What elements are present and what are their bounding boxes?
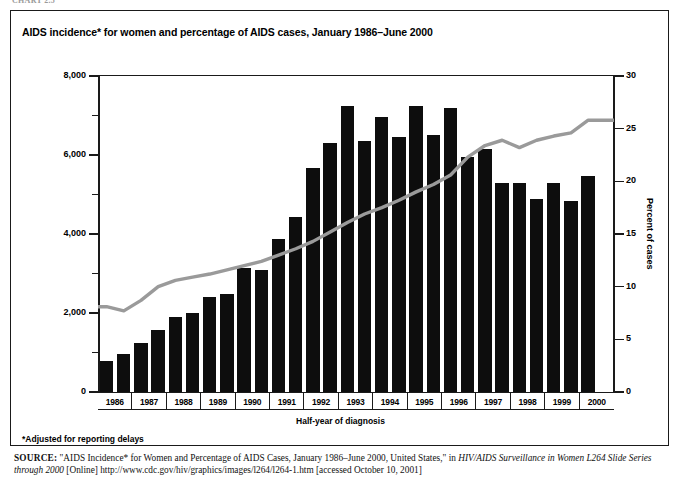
x-axis-year-cell: 2000 — [580, 393, 614, 410]
x-axis-title: Half-year of diagnosis — [0, 416, 681, 426]
y-axis-left-tick-label: 6,000 — [63, 149, 86, 159]
y-axis-right-tick-label: 5 — [626, 333, 631, 343]
x-axis-year-band: 1986198719881989199019911992199319941995… — [98, 393, 614, 410]
y-axis-right-tick — [615, 391, 624, 392]
y-axis-right-tick-label: 25 — [626, 123, 636, 133]
figure-page: CHART 2.5 AIDS incidence* for women and … — [0, 0, 681, 484]
y-axis-right-title: Percent of cases — [645, 198, 655, 270]
y-axis-right-tick-label: 10 — [626, 281, 636, 291]
y-axis-right-tick — [615, 339, 624, 340]
y-axis-right-tick — [615, 233, 624, 234]
y-axis-left-tick-label: 2,000 — [63, 307, 86, 317]
plot-area — [98, 76, 614, 392]
x-axis-year-cell: 1995 — [408, 393, 442, 410]
y-axis-right-tick — [615, 75, 624, 76]
x-axis-year-cell: 1998 — [511, 393, 545, 410]
y-axis-right-tick-label: 20 — [626, 175, 636, 185]
y-axis-left-tick — [89, 312, 98, 313]
figure-footnote: *Adjusted for reporting delays — [22, 434, 144, 444]
y-axis-right-tick-label: 15 — [626, 228, 636, 238]
y-axis-left-tick — [89, 75, 98, 76]
y-axis-right-tick-label: 0 — [626, 386, 631, 396]
y-axis-right-tick — [615, 286, 624, 287]
y-axis-left-tick-label: 0 — [81, 386, 86, 396]
x-axis-year-cell: 1991 — [270, 393, 304, 410]
y-axis-left-tick-label: 4,000 — [63, 228, 86, 238]
x-axis-year-cell: 1987 — [132, 393, 166, 410]
x-axis-year-cell: 1989 — [201, 393, 235, 410]
source-text-part2: [Online] http://www.cdc.gov/hiv/graphics… — [64, 465, 422, 475]
source-note: SOURCE: "AIDS Incidence* for Women and P… — [14, 452, 669, 476]
x-axis-year-cell: 1988 — [167, 393, 201, 410]
y-axis-right-tick-label: 30 — [626, 70, 636, 80]
y-axis-left-tick — [89, 233, 98, 234]
x-axis-year-cell: 1996 — [442, 393, 476, 410]
x-axis-year-cell: 1999 — [545, 393, 579, 410]
x-axis-year-cell: 1986 — [98, 393, 132, 410]
x-axis-year-cell: 1993 — [339, 393, 373, 410]
source-label: SOURCE: — [14, 453, 57, 463]
x-axis-year-cell: 1990 — [236, 393, 270, 410]
y-axis-left-tick — [89, 391, 98, 392]
percent-line-series — [98, 76, 614, 392]
y-axis-right-tick — [615, 181, 624, 182]
x-axis-year-cell: 1994 — [373, 393, 407, 410]
y-axis-left-tick-label: 8,000 — [63, 70, 86, 80]
y-axis-left-tick — [89, 154, 98, 155]
source-text-part1: "AIDS Incidence* for Women and Percentag… — [60, 453, 459, 463]
x-axis-year-cell: 1992 — [304, 393, 338, 410]
percent-of-cases-line — [98, 120, 614, 311]
x-axis-year-cell: 1997 — [476, 393, 510, 410]
y-axis-left-labels: 02,0004,0006,0008,000 — [20, 0, 86, 484]
y-axis-right-tick — [615, 128, 624, 129]
